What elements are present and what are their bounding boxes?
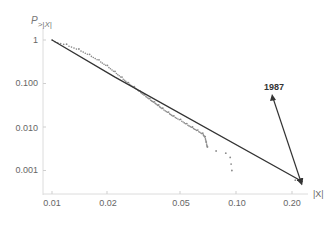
data-point bbox=[78, 48, 80, 50]
data-point bbox=[96, 59, 98, 61]
data-point bbox=[124, 80, 126, 82]
data-point bbox=[82, 51, 84, 53]
data-point bbox=[215, 150, 217, 152]
data-point bbox=[94, 58, 96, 60]
data-point bbox=[85, 52, 87, 54]
data-point bbox=[143, 94, 145, 96]
x-tick-label: 0.02 bbox=[99, 198, 117, 208]
data-point bbox=[231, 170, 233, 172]
data-point bbox=[93, 57, 95, 59]
data-point bbox=[71, 46, 73, 48]
data-point bbox=[111, 69, 113, 71]
data-point bbox=[229, 157, 231, 159]
x-tick-label: 0.10 bbox=[228, 198, 246, 208]
data-point bbox=[191, 127, 193, 129]
arrowhead-icon bbox=[270, 94, 276, 101]
y-tick-label: 0.010 bbox=[15, 123, 38, 133]
data-point bbox=[179, 119, 181, 121]
data-point bbox=[107, 65, 109, 67]
data-point bbox=[148, 98, 150, 100]
data-point bbox=[73, 47, 75, 49]
x-tick-label: 0.01 bbox=[43, 198, 61, 208]
data-point bbox=[89, 53, 91, 55]
data-point bbox=[87, 53, 89, 55]
data-point bbox=[125, 81, 127, 83]
x-axis-title: |X| bbox=[313, 189, 324, 199]
chart: P>|X| 1 0.100 0.010 0.001 0.01 0.02 0.05… bbox=[0, 0, 331, 226]
data-point bbox=[177, 118, 179, 120]
data-point bbox=[102, 62, 104, 64]
data-point bbox=[185, 123, 187, 125]
data-point bbox=[68, 45, 70, 47]
data-point bbox=[63, 44, 65, 46]
data-point bbox=[116, 73, 118, 75]
data-point bbox=[114, 71, 116, 73]
data-point bbox=[122, 78, 124, 80]
data-point bbox=[230, 163, 232, 165]
data-point bbox=[108, 67, 110, 69]
data-point bbox=[196, 130, 198, 132]
data-point bbox=[105, 65, 107, 67]
data-point bbox=[66, 43, 68, 45]
data-point bbox=[98, 59, 100, 61]
annotation-label: 1987 bbox=[264, 82, 284, 92]
data-point bbox=[80, 50, 82, 52]
data-point bbox=[294, 179, 296, 181]
data-point bbox=[167, 112, 169, 114]
data-point bbox=[100, 61, 102, 63]
y-tick-label: 1 bbox=[33, 35, 38, 45]
data-point bbox=[157, 105, 159, 107]
x-tick-label: 0.20 bbox=[283, 198, 301, 208]
y-axis-title: P>|X| bbox=[31, 15, 52, 29]
data-point bbox=[76, 48, 78, 50]
data-point bbox=[103, 63, 105, 65]
data-point bbox=[204, 136, 206, 138]
y-tick-label: 0.001 bbox=[15, 165, 38, 175]
data-point bbox=[91, 56, 93, 58]
data-point bbox=[205, 141, 207, 143]
data-point bbox=[153, 101, 155, 103]
data-point bbox=[117, 74, 119, 76]
data-point bbox=[172, 115, 174, 117]
data-point bbox=[120, 76, 122, 78]
annotation-arrow bbox=[273, 98, 301, 182]
data-point bbox=[225, 152, 227, 154]
x-tick-label: 0.05 bbox=[172, 198, 190, 208]
fit-line bbox=[52, 40, 303, 182]
data-point bbox=[201, 133, 203, 135]
data-point bbox=[110, 68, 112, 70]
data-point bbox=[207, 146, 209, 148]
data-point bbox=[161, 108, 163, 110]
y-tick-label: 0.100 bbox=[15, 78, 38, 88]
data-point bbox=[118, 75, 120, 77]
data-point bbox=[113, 70, 115, 72]
